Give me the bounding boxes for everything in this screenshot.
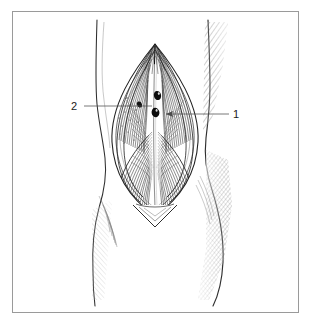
callout-label-2: 2 <box>71 100 77 112</box>
right-calf-shading <box>194 148 238 306</box>
right-thigh-shading <box>198 18 234 136</box>
left-calf-shading <box>88 198 116 308</box>
surgical-exposure <box>112 44 198 227</box>
vessel-marker-upper-highlight <box>158 92 160 95</box>
anatomical-illustration: 2 1 <box>0 0 313 329</box>
left-thigh-inner-line <box>102 22 110 148</box>
figure-container: 2 1 <box>0 0 313 329</box>
distal-apex <box>133 204 177 227</box>
vessel-marker-lower-highlight <box>156 109 158 112</box>
callout-label-1: 1 <box>233 108 239 120</box>
